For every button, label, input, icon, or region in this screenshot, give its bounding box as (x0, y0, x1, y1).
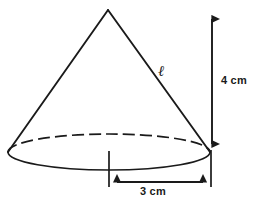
cone-base-back-arc (8, 134, 210, 152)
cone-right-slant-line (108, 10, 210, 152)
cone-diagram: 4 cm 3 cm ℓ (0, 0, 265, 199)
radius-dimension-label: 3 cm (140, 186, 166, 197)
slant-height-label: ℓ (158, 64, 164, 79)
cone-figure-graphic (0, 0, 265, 199)
height-dimension-label: 4 cm (221, 75, 247, 86)
cone-left-slant-line (8, 10, 108, 152)
